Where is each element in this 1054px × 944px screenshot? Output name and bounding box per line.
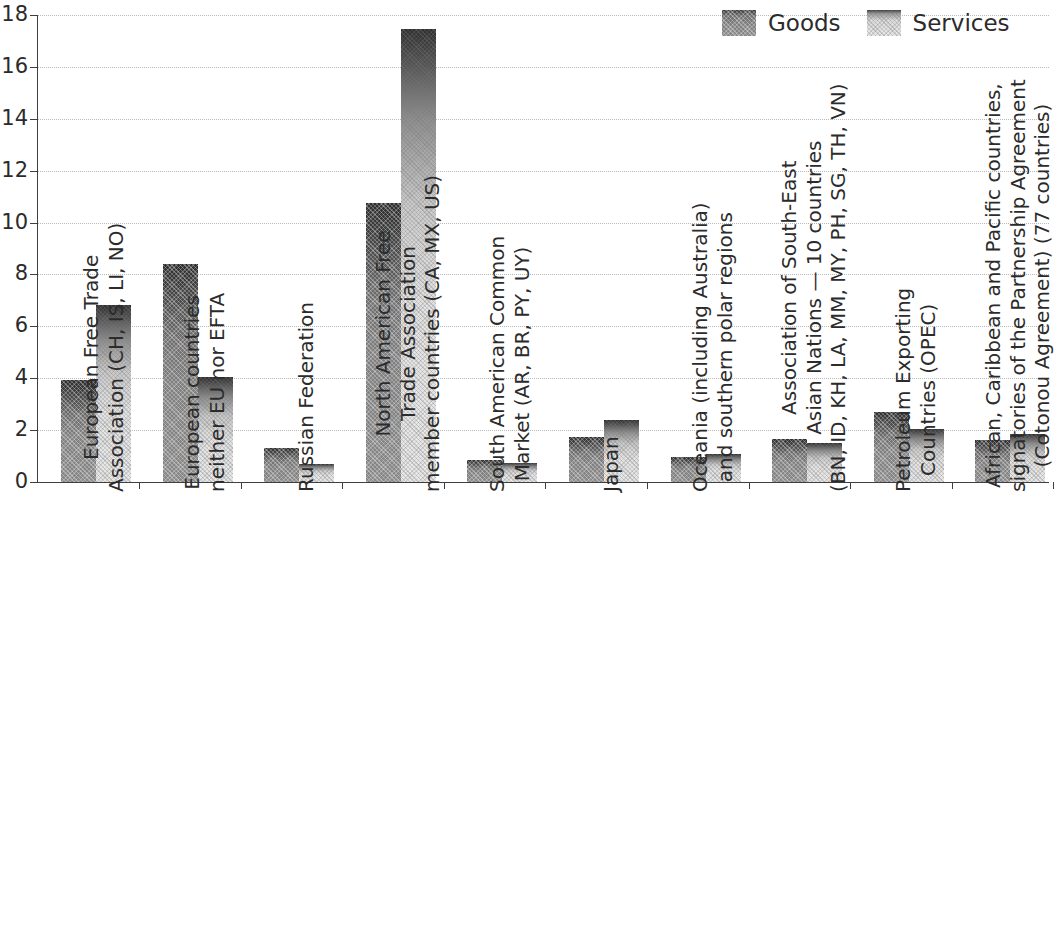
y-tick-mark xyxy=(30,326,37,327)
x-tick-label: Russian Federation xyxy=(294,302,319,492)
y-tick-label: 2 xyxy=(0,419,28,440)
x-tick-label-line: (Cotonou Agreement) (77 countries) xyxy=(1030,79,1054,492)
x-tick-label-line: European Free Trade xyxy=(79,223,104,492)
y-tick-label: 12 xyxy=(0,160,28,181)
x-tick-mark xyxy=(342,482,343,489)
x-tick-label-line: Japan xyxy=(599,436,624,492)
y-tick-mark xyxy=(30,274,37,275)
x-tick-label-line: Asian Nations — 10 countries xyxy=(802,83,827,492)
legend-label: Goods xyxy=(768,12,841,35)
x-tick-mark xyxy=(139,482,140,489)
y-tick-label: 16 xyxy=(0,56,28,77)
y-tick-label: 0 xyxy=(0,471,28,492)
legend: GoodsServices xyxy=(722,10,1010,36)
x-tick-label: Petroleum ExportingCountries (OPEC) xyxy=(891,288,940,492)
x-tick-label-line: Countries (OPEC) xyxy=(916,288,941,492)
legend-swatch-goods-icon xyxy=(722,10,756,36)
x-tick-label-line: Association of South-East xyxy=(777,83,802,492)
y-tick-mark xyxy=(30,67,37,68)
x-tick-label-line: and southern polar regions xyxy=(713,202,738,492)
x-tick-label-line: Trade Association xyxy=(396,175,421,492)
x-tick-mark xyxy=(241,482,242,489)
legend-swatch-services-icon xyxy=(867,10,901,36)
y-tick-mark xyxy=(30,482,37,483)
y-tick-mark xyxy=(30,119,37,120)
x-tick-label-line: Association (CH, IS, LI, NO) xyxy=(103,223,128,492)
x-tick-label: North American FreeTrade Associationmemb… xyxy=(371,175,445,492)
legend-label: Services xyxy=(913,12,1010,35)
y-tick-label: 14 xyxy=(0,108,28,129)
x-tick-label: European countriesneither EU nor EFTA xyxy=(180,293,229,492)
x-tick-label-line: Oceania (including Australia) xyxy=(688,202,713,492)
y-tick-mark xyxy=(30,171,37,172)
x-tick-label-line: member countries (CA, MX, US) xyxy=(420,175,445,492)
x-tick-label: Japan xyxy=(599,436,624,492)
x-tick-label-line: signatories of the Partnership Agreement xyxy=(1005,79,1030,492)
y-tick-mark xyxy=(30,223,37,224)
y-tick-mark xyxy=(30,15,37,16)
y-tick-label: 4 xyxy=(0,367,28,388)
x-tick-mark xyxy=(952,482,953,489)
y-tick-label: 18 xyxy=(0,4,28,25)
x-tick-label: Association of South-EastAsian Nations —… xyxy=(777,83,851,492)
x-tick-label-line: European countries xyxy=(180,293,205,492)
x-tick-label-line: African, Caribbean and Pacific countries… xyxy=(981,79,1006,492)
x-tick-label-line: North American Free xyxy=(371,175,396,492)
x-tick-mark xyxy=(545,482,546,489)
x-tick-label-line: South American Common xyxy=(485,236,510,492)
x-tick-label-line: (BN, ID, KH, LA, MM, MY, PH, SG, TH, VN) xyxy=(826,83,851,492)
x-tick-label-line: Russian Federation xyxy=(294,302,319,492)
x-tick-label: South American CommonMarket (AR, BR, PY,… xyxy=(485,236,534,492)
y-tick-mark xyxy=(30,430,37,431)
x-tick-mark xyxy=(647,482,648,489)
x-tick-label: Oceania (including Australia)and souther… xyxy=(688,202,737,492)
legend-entry-goods[interactable]: Goods xyxy=(722,10,841,36)
legend-entry-services[interactable]: Services xyxy=(867,10,1010,36)
y-tick-label: 6 xyxy=(0,315,28,336)
x-tick-mark xyxy=(749,482,750,489)
x-tick-label-line: Petroleum Exporting xyxy=(891,288,916,492)
x-tick-label-line: neither EU nor EFTA xyxy=(205,293,230,492)
y-tick-mark xyxy=(30,378,37,379)
y-tick-label: 10 xyxy=(0,212,28,233)
x-tick-label-line: Market (AR, BR, PY, UY) xyxy=(509,236,534,492)
x-tick-label: African, Caribbean and Pacific countries… xyxy=(981,79,1054,492)
x-tick-label: European Free TradeAssociation (CH, IS, … xyxy=(79,223,128,492)
y-tick-label: 8 xyxy=(0,263,28,284)
